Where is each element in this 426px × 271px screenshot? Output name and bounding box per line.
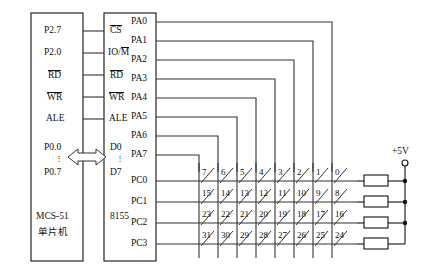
key-7[interactable]: 7: [202, 167, 207, 177]
key-29[interactable]: 29: [240, 230, 249, 240]
key-4[interactable]: 4: [259, 167, 264, 177]
key-16[interactable]: 16: [335, 209, 344, 219]
key-12[interactable]: 12: [259, 188, 268, 198]
key-17[interactable]: 17: [316, 209, 325, 219]
label-layer: P2.7 P2.0 RD WR ALE P0.0 ⋮ P0.7 MCS-51 单…: [0, 0, 426, 271]
key-11[interactable]: 11: [278, 188, 287, 198]
key-21[interactable]: 21: [240, 209, 249, 219]
key-15[interactable]: 15: [202, 188, 211, 198]
key-0[interactable]: 0: [335, 167, 340, 177]
key-14[interactable]: 14: [221, 188, 230, 198]
key-28[interactable]: 28: [259, 230, 268, 240]
key-18[interactable]: 18: [297, 209, 306, 219]
key-1[interactable]: 1: [316, 167, 321, 177]
key-27[interactable]: 27: [278, 230, 287, 240]
circuit-diagram: P2.7 P2.0 RD WR ALE P0.0 ⋮ P0.7 MCS-51 单…: [0, 0, 426, 271]
key-30[interactable]: 30: [221, 230, 230, 240]
key-6[interactable]: 6: [221, 167, 226, 177]
key-13[interactable]: 13: [240, 188, 249, 198]
key-10[interactable]: 10: [297, 188, 306, 198]
key-25[interactable]: 25: [316, 230, 325, 240]
key-20[interactable]: 20: [259, 209, 268, 219]
key-31[interactable]: 31: [202, 230, 211, 240]
key-22[interactable]: 22: [221, 209, 230, 219]
key-26[interactable]: 26: [297, 230, 306, 240]
key-23[interactable]: 23: [202, 209, 211, 219]
key-24[interactable]: 24: [335, 230, 344, 240]
key-5[interactable]: 5: [240, 167, 245, 177]
key-2[interactable]: 2: [297, 167, 302, 177]
key-number-layer: 7654321015141312111098232221201918171631…: [0, 0, 426, 271]
key-19[interactable]: 19: [278, 209, 287, 219]
key-9[interactable]: 9: [316, 188, 321, 198]
key-3[interactable]: 3: [278, 167, 283, 177]
key-8[interactable]: 8: [335, 188, 340, 198]
